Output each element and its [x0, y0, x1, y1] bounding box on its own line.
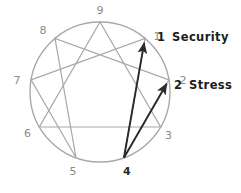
point-number-5: 5 [70, 165, 77, 178]
outer-circle [30, 22, 170, 162]
enneagram-diagram: 123456789 1 Security 2 Stress [0, 0, 241, 193]
triangle-polygon [39, 22, 160, 127]
callout-stress-label: Stress [189, 78, 232, 92]
point-number-6: 6 [24, 127, 31, 140]
hexad-polygon [31, 38, 169, 157]
callout-security-number: 1 [157, 30, 165, 44]
enneagram-hexad-lines [31, 38, 169, 157]
point-number-9: 9 [97, 4, 104, 17]
point-number-4: 4 [123, 165, 131, 178]
enneagram-circle [30, 22, 170, 162]
enneagram-triangle-lines [39, 22, 160, 127]
point-number-3: 3 [165, 129, 172, 142]
callout-stress-number: 2 [174, 78, 182, 92]
enneagram-canvas: 123456789 1 Security 2 Stress [0, 0, 241, 193]
point-number-7: 7 [14, 74, 21, 87]
point-number-8: 8 [40, 24, 47, 37]
callout-security: 1 Security [157, 30, 229, 44]
callout-security-label: Security [172, 30, 229, 44]
